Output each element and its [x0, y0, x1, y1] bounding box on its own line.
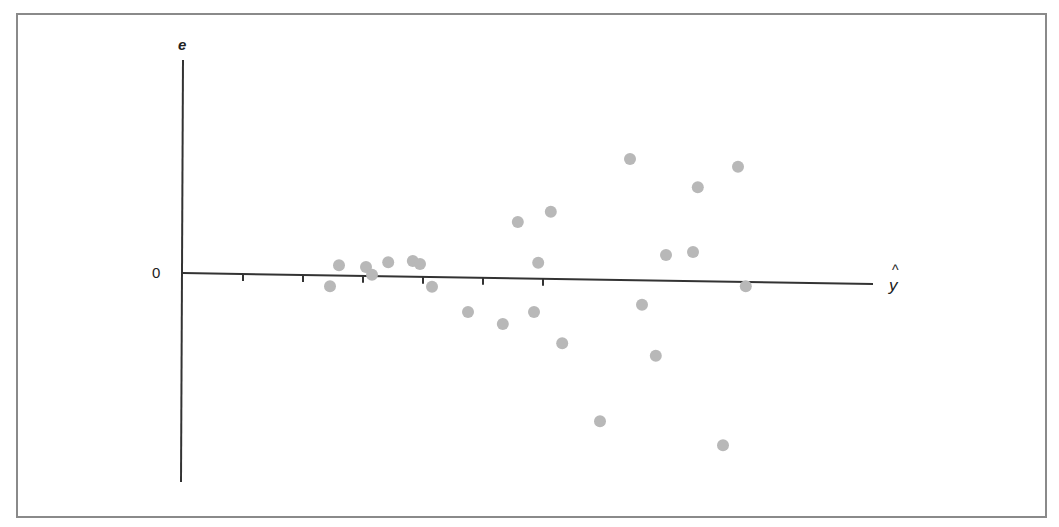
data-point — [717, 439, 729, 451]
data-point — [532, 257, 544, 269]
data-point — [650, 350, 662, 362]
data-point — [324, 280, 336, 292]
data-point — [382, 256, 394, 268]
data-point — [687, 246, 699, 258]
data-point — [660, 249, 672, 261]
data-point — [333, 259, 345, 271]
data-point — [512, 216, 524, 228]
data-point — [426, 281, 438, 293]
data-point — [545, 206, 557, 218]
data-point — [594, 415, 606, 427]
x-axis-label: y — [889, 276, 898, 296]
data-point — [366, 269, 378, 281]
x-axis — [183, 273, 873, 284]
y-axis-label: e — [178, 36, 186, 53]
zero-tick-label: 0 — [152, 264, 160, 281]
y-axis — [181, 60, 183, 482]
data-point — [528, 306, 540, 318]
data-point — [740, 280, 752, 292]
data-point — [636, 299, 648, 311]
data-point — [497, 318, 509, 330]
data-point — [556, 337, 568, 349]
data-point — [414, 258, 426, 270]
data-point — [462, 306, 474, 318]
data-point — [692, 181, 704, 193]
data-points — [324, 153, 752, 451]
data-point — [732, 161, 744, 173]
data-point — [624, 153, 636, 165]
